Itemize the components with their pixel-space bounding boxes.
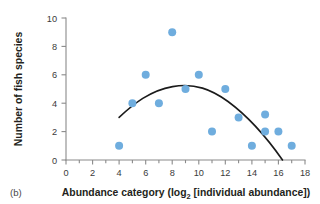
data-point	[182, 85, 190, 93]
y-tick-label-10: 10	[47, 14, 57, 24]
x-tick-label-16: 16	[273, 168, 283, 178]
figure-panel-b: 10 8 6 4 2 0 0	[0, 0, 320, 204]
data-point	[261, 128, 269, 136]
panel-label: (b)	[10, 187, 22, 198]
data-point	[168, 28, 176, 36]
x-axis-title: Abundance category (log2 [individual abu…	[62, 187, 310, 201]
x-tick-label-18: 18	[300, 168, 310, 178]
y-tick-label-8: 8	[52, 42, 57, 52]
data-point	[155, 99, 163, 107]
y-tick-label-2: 2	[52, 127, 57, 137]
x-tick-label-4: 4	[117, 168, 122, 178]
y-tick-label-0: 0	[52, 156, 57, 166]
x-tick-label-14: 14	[247, 168, 257, 178]
x-tick-label-6: 6	[143, 168, 148, 178]
x-tick-label-8: 8	[170, 168, 175, 178]
data-point	[235, 113, 243, 121]
x-tick-label-0: 0	[63, 168, 68, 178]
data-point	[195, 71, 203, 79]
data-point	[208, 128, 216, 136]
data-point	[248, 142, 256, 150]
data-point	[274, 128, 282, 136]
y-tick-label-4: 4	[52, 99, 57, 109]
data-point	[288, 142, 296, 150]
x-tick-label-10: 10	[194, 168, 204, 178]
x-axis-title-tail: [individual abundance])	[191, 187, 311, 198]
svg-text:Abundance category (log2 [indi: Abundance category (log2 [individual abu…	[62, 187, 310, 201]
data-point	[142, 71, 150, 79]
scatter-chart: 10 8 6 4 2 0 0	[0, 0, 320, 204]
x-tick-label-12: 12	[220, 168, 230, 178]
data-point	[261, 111, 269, 119]
quadratic-fit-curve	[119, 86, 282, 160]
y-axis-ticks: 10 8 6 4 2 0	[47, 14, 66, 166]
x-axis-title-main: Abundance category (log	[62, 187, 187, 198]
y-tick-label-6: 6	[52, 70, 57, 80]
data-point	[221, 85, 229, 93]
y-axis-title: Number of fish species	[13, 32, 24, 147]
data-point	[115, 142, 123, 150]
data-point	[128, 99, 136, 107]
x-tick-label-2: 2	[90, 168, 95, 178]
x-axis-ticks: 0 2 4 6 8 10 12 14 16 18	[63, 160, 310, 178]
